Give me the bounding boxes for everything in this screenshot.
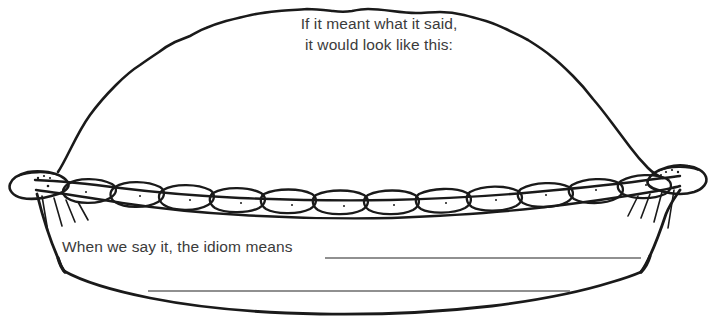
dish-right-corner [641,256,650,272]
top-prompt-text: If it meant what it said, it would look … [0,13,716,55]
worksheet-page: If it meant what it said, it would look … [0,0,716,328]
dish-left-corner [58,258,65,272]
bottom-prompt-text: When we say it, the idiom means [62,236,293,257]
